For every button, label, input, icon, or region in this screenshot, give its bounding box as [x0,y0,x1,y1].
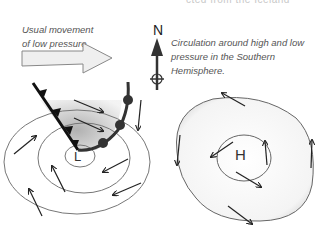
weather-diagram [0,0,328,239]
compass-icon [150,38,164,90]
low-label: L [74,149,81,164]
north-label: N [153,22,163,38]
movement-arrow-icon [22,43,112,73]
high-label: H [235,146,246,163]
